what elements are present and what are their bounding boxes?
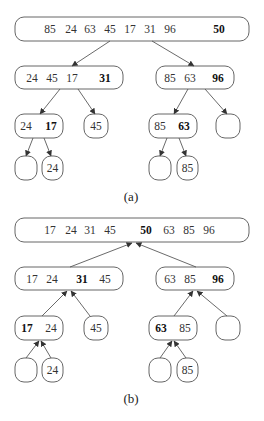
tree-node: 6385: [149, 316, 197, 340]
tree-node: 1724314550638596: [15, 218, 249, 242]
node-value: 24: [47, 364, 59, 376]
tree-node: 1724: [15, 316, 63, 340]
tree-node: [216, 316, 240, 340]
panel-a: 8524634517319650244517318563962417458563…: [15, 17, 249, 204]
node-value: 45: [46, 72, 58, 84]
tree-node: 24: [42, 156, 63, 180]
node-box: [216, 114, 240, 138]
tree-node: [149, 156, 171, 180]
node-value: 45: [104, 224, 116, 236]
pivot-value: 17: [45, 120, 57, 132]
tree-node: 85: [177, 358, 198, 382]
tree-edge-arrow: [70, 243, 132, 267]
node-value: 85: [183, 224, 195, 236]
pivot-value: 50: [213, 23, 225, 35]
node-box: [149, 156, 171, 180]
tree-node: 24: [42, 358, 63, 382]
node-value: 24: [26, 72, 38, 84]
node-value: 17: [66, 72, 78, 84]
tree-edge-arrow: [179, 138, 186, 156]
node-value: 96: [164, 23, 176, 35]
tree-edge-arrow: [136, 243, 196, 267]
tree-node: [15, 156, 37, 180]
tree-edge-arrow: [71, 291, 90, 316]
tree-node: 638596: [156, 267, 234, 290]
tree-node: 45: [84, 316, 108, 340]
node-value: 85: [182, 364, 194, 376]
tree-edge-arrow: [174, 89, 188, 114]
node-value: 63: [184, 72, 196, 84]
pivot-value: 31: [76, 273, 88, 285]
tree-node: 24451731: [15, 66, 123, 89]
node-box: [149, 358, 171, 382]
tree-node: 2417: [15, 114, 63, 138]
tree-node: [15, 358, 37, 382]
panel-caption: (a): [124, 189, 138, 204]
tree-edge-arrow: [205, 89, 227, 114]
node-value: 17: [44, 224, 56, 236]
node-value: 63: [84, 23, 96, 35]
tree-node: 45: [84, 114, 108, 138]
tree-edge-arrow: [40, 89, 60, 114]
node-value: 24: [47, 162, 59, 174]
pivot-value: 17: [21, 322, 33, 334]
tree-node: 8524634517319650: [15, 17, 249, 41]
pivot-value: 63: [155, 322, 167, 334]
tree-edge-arrow: [44, 138, 51, 156]
pivot-value: 96: [212, 72, 224, 84]
node-value: 85: [182, 162, 194, 174]
tree-node: 8563: [149, 114, 197, 138]
pivot-value: 63: [178, 120, 190, 132]
node-value: 85: [154, 120, 166, 132]
tree-edge-arrow: [152, 41, 194, 66]
tree-edge-arrow: [26, 341, 39, 358]
node-value: 96: [203, 224, 215, 236]
tree-edge-arrow: [160, 138, 167, 156]
tree-edge-arrow: [174, 341, 186, 358]
node-value: 63: [163, 224, 175, 236]
tree-node: 17243145: [15, 267, 123, 290]
node-value: 85: [44, 23, 56, 35]
node-box: [15, 156, 37, 180]
tree-node: 856396: [156, 66, 234, 89]
node-value: 24: [45, 322, 57, 334]
node-value: 45: [90, 120, 102, 132]
panel-b: 1724314550638596172431456385961724456385…: [15, 218, 249, 406]
node-value: 45: [90, 322, 102, 334]
node-value: 85: [184, 273, 196, 285]
pivot-value: 96: [212, 273, 224, 285]
node-value: 85: [164, 72, 176, 84]
pivot-value: 50: [140, 224, 152, 236]
node-value: 17: [26, 273, 38, 285]
node-value: 17: [124, 23, 136, 35]
node-value: 31: [84, 224, 96, 236]
tree-edge-arrow: [174, 291, 193, 316]
tree-edge-arrow: [197, 291, 227, 316]
tree-edge-arrow: [42, 291, 67, 316]
pivot-value: 31: [99, 72, 111, 84]
tree-edge-arrow: [72, 41, 110, 66]
node-value: 24: [46, 273, 58, 285]
tree-edge-arrow: [41, 341, 51, 358]
tree-node: [149, 358, 171, 382]
node-box: [15, 358, 37, 382]
node-value: 24: [20, 120, 32, 132]
node-box: [216, 316, 240, 340]
tree-node: 85: [177, 156, 198, 180]
node-value: 31: [144, 23, 156, 35]
tree-edge-arrow: [78, 89, 95, 114]
node-value: 85: [179, 322, 191, 334]
tree-edge-arrow: [160, 341, 172, 358]
panel-caption: (b): [123, 391, 138, 406]
tree-edge-arrow: [26, 138, 33, 156]
quick-sort-diagram: 8524634517319650244517318563962417458563…: [0, 0, 264, 421]
node-value: 45: [99, 273, 111, 285]
node-value: 45: [104, 23, 116, 35]
node-value: 24: [65, 224, 77, 236]
node-value: 63: [164, 273, 176, 285]
node-value: 24: [65, 23, 77, 35]
tree-node: [216, 114, 240, 138]
